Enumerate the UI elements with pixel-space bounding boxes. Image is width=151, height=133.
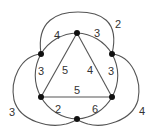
- edge-t-lr: [77, 33, 112, 97]
- label-lr-b: 6: [92, 103, 98, 115]
- label-ll-lr: 5: [74, 84, 80, 96]
- label-t-ur: 3: [94, 27, 100, 39]
- label-ul-ur-outer: 2: [115, 18, 121, 30]
- node-upper-left: [38, 51, 44, 57]
- label-t-ul: 4: [54, 29, 60, 41]
- node-lower-left: [38, 94, 44, 100]
- label-ur-b-outer: 4: [139, 105, 145, 117]
- label-t-ll: 5: [62, 64, 68, 76]
- label-ul-b-outer: 3: [9, 106, 15, 118]
- node-top: [74, 30, 80, 36]
- edge-t-ll: [41, 33, 77, 97]
- label-t-lr: 4: [87, 64, 93, 76]
- label-ur-lr: 3: [108, 65, 114, 77]
- graph-diagram: 4 3 3 3 2 6 5 4 5 2 3 4: [0, 0, 151, 133]
- node-upper-right: [109, 51, 115, 57]
- label-ll-b: 2: [55, 103, 61, 115]
- node-bottom: [74, 116, 80, 122]
- label-ul-ll: 3: [38, 65, 44, 77]
- node-lower-right: [109, 94, 115, 100]
